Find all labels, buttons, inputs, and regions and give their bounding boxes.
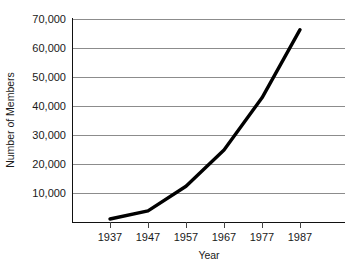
y-tick-label-70000: 70,000: [32, 13, 66, 25]
y-axis-title: Number of Members: [4, 72, 16, 168]
line-chart: 70,000 60,000 50,000 40,000 30,000 20,00…: [0, 0, 349, 269]
x-tick-label-1937: 1937: [98, 231, 122, 243]
y-tick-label-20000: 20,000: [32, 158, 66, 170]
y-tick-label-40000: 40,000: [32, 100, 66, 112]
x-tick-label-1967: 1967: [212, 231, 236, 243]
x-axis-title: Year: [198, 249, 220, 261]
y-tick-label-10000: 10,000: [32, 187, 66, 199]
y-tick-label-30000: 30,000: [32, 129, 66, 141]
y-tick-label-60000: 60,000: [32, 42, 66, 54]
x-tick-label-1977: 1977: [250, 231, 274, 243]
x-tick-label-1947: 1947: [136, 231, 160, 243]
chart-figure: 70,000 60,000 50,000 40,000 30,000 20,00…: [0, 0, 349, 269]
x-tick-label-1957: 1957: [174, 231, 198, 243]
x-tick-label-1987: 1987: [288, 231, 312, 243]
y-tick-label-50000: 50,000: [32, 71, 66, 83]
